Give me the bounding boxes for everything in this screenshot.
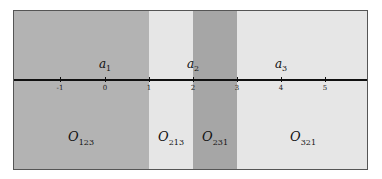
tick — [281, 77, 282, 82]
point-label-a2: a2 — [187, 57, 199, 73]
region-label-o213: O213 — [158, 129, 184, 147]
diagram-frame: -1 0 1 2 3 4 5 a1 a2 a3 O123 O213 O231 O… — [13, 10, 368, 170]
tick — [149, 77, 150, 82]
tick — [325, 77, 326, 82]
region-label-o321: O321 — [290, 129, 316, 147]
tick-label: -1 — [57, 84, 64, 92]
tick-label: 4 — [279, 84, 283, 92]
tick — [105, 77, 106, 82]
region-label-o123: O123 — [68, 129, 94, 147]
point-label-a1: a1 — [99, 57, 111, 73]
tick-label: 2 — [191, 84, 195, 92]
tick-label: 3 — [235, 84, 239, 92]
tick-label: 1 — [147, 84, 151, 92]
tick-label: 0 — [103, 84, 107, 92]
tick — [237, 77, 238, 82]
tick — [193, 77, 194, 82]
tick-label: 5 — [323, 84, 327, 92]
point-label-a3: a3 — [275, 57, 287, 73]
tick — [60, 77, 61, 82]
number-line-axis — [14, 79, 367, 81]
region-label-o231: O231 — [202, 129, 228, 147]
